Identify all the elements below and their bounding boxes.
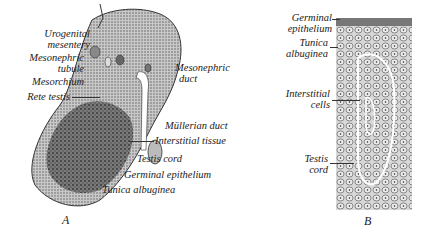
figure-b-caption: B	[364, 214, 371, 229]
label-line: Testis cord	[137, 153, 182, 164]
label-mesonephric-duct: Mesonephric duct	[175, 62, 230, 84]
label-germinal-epithelium-b: Germinal epithelium	[272, 12, 332, 34]
label-tunica-albuginea-b: Tunica albuginea	[272, 37, 328, 59]
label-mesorchium: Mesorchium	[12, 76, 84, 87]
leader-line	[330, 163, 354, 164]
label-tunica-albuginea: Tunica albuginea	[102, 184, 175, 195]
label-line: Tunica albuginea	[102, 184, 175, 195]
label-line: Tunica	[272, 37, 328, 48]
label-rete-testis: Rete testis	[10, 91, 70, 102]
label-line: Mesorchium	[12, 76, 84, 87]
label-testis-cord-b: Testis cord	[272, 153, 328, 175]
figure-a-caption: A	[62, 213, 69, 228]
label-line: Germinal epithelium	[124, 169, 211, 180]
label-interstitial-tissue: Interstitial tissue	[155, 135, 226, 146]
label-line: cells	[272, 99, 330, 110]
label-mesonephric-tubule: Mesonephric tubule	[12, 52, 84, 74]
label-line: Müllerian duct	[165, 120, 228, 131]
leader-line	[332, 19, 340, 20]
leader-line	[330, 47, 338, 48]
label-line: Urogenital	[22, 28, 90, 39]
leader-line	[332, 100, 360, 101]
label-line: cord	[272, 164, 328, 175]
label-line: mesentery	[22, 39, 90, 50]
label-line: tubule	[12, 63, 84, 74]
leader-line	[130, 141, 154, 142]
label-testis-cord: Testis cord	[137, 153, 182, 164]
label-mullerian-duct: Müllerian duct	[165, 120, 228, 131]
leader-line	[72, 97, 100, 98]
label-line: Mesonephric	[12, 52, 84, 63]
label-line: albuginea	[272, 48, 328, 59]
label-line: duct	[175, 73, 230, 84]
label-line: Interstitial	[272, 88, 330, 99]
label-line: Interstitial tissue	[155, 135, 226, 146]
label-germinal-epithelium: Germinal epithelium	[124, 169, 211, 180]
label-line: Mesonephric	[175, 62, 230, 73]
figure-b-histology-section	[336, 18, 412, 210]
label-line: Germinal	[272, 12, 332, 23]
label-line: epithelium	[272, 23, 332, 34]
label-interstitial-cells: Interstitial cells	[272, 88, 330, 110]
label-line: Rete testis	[10, 91, 70, 102]
label-line: Testis	[272, 153, 328, 164]
label-urogenital-mesentery: Urogenital mesentery	[22, 28, 90, 50]
